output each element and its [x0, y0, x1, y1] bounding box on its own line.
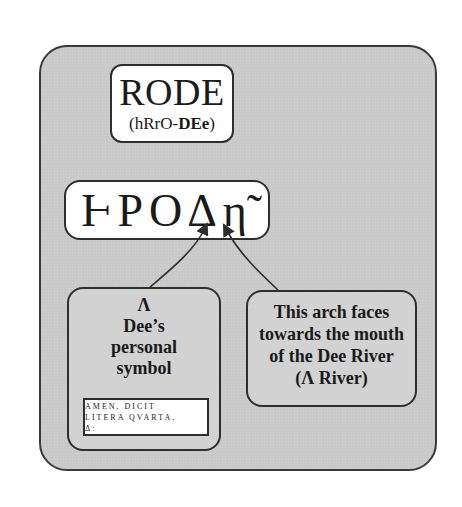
left-line-2: personal — [69, 337, 219, 358]
right-line-3: of the Dee River — [248, 345, 415, 367]
quote-line-2: LITERA QVARTA, — [85, 412, 207, 423]
rode-title: RODE — [112, 72, 232, 112]
pronunciation-end: ) — [209, 114, 215, 133]
quote-line-3: Δ: — [85, 423, 207, 434]
right-line-1: This arch faces — [248, 301, 415, 323]
lambda-symbol: Λ — [69, 295, 219, 316]
left-line-3: symbol — [69, 358, 219, 379]
quote-line-1: AMEN, DICIT — [85, 401, 207, 412]
greek-word-box: ⱵΡΟΔη̃ — [64, 180, 270, 240]
left-line-1: Dee’s — [69, 316, 219, 337]
arch-note-box: This arch faces towards the mouth of the… — [246, 290, 417, 407]
greek-word: ⱵΡΟΔη̃ — [66, 182, 268, 240]
rode-word-box: RODE (hRrO-DEe) — [110, 64, 234, 143]
pronunciation-plain: (hRrO- — [129, 114, 178, 133]
pronunciation-bold: DEe — [178, 114, 209, 133]
right-line-2: towards the mouth — [248, 323, 415, 345]
right-line-4: (Λ River) — [248, 367, 415, 389]
latin-quote-box: AMEN, DICIT LITERA QVARTA, Δ: — [83, 398, 209, 436]
rode-pronunciation: (hRrO-DEe) — [112, 114, 232, 134]
